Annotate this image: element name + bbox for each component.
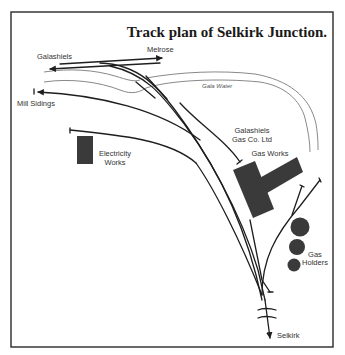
gas-company-label-line2: Gas Co. Ltd [232,135,272,144]
gas-company-label-line1: Galashiels [234,126,269,135]
main-tracks [34,58,321,338]
selkirk-label: Selkirk [277,331,300,340]
electricity-works-label-line2: Works [104,158,125,167]
gala-water-label: Gala Water [202,83,233,89]
diagram-title: Track plan of Selkirk Junction. [127,24,327,40]
electricity-works-label-line1: Electricity [99,149,131,158]
gas-works-label: Gas Works [252,149,289,158]
galashiels-label: Galashiels [37,52,72,61]
electricity-works-building [77,136,93,164]
mill-sidings-label: Mill Sidings [17,99,55,108]
gas-holders-label-line2: Holders [302,258,328,267]
track-plan-diagram: Track plan of Selkirk Junction. Gala Wat… [0,0,345,355]
gas-works-building [233,157,303,218]
melrose-label: Melrose [147,45,174,54]
